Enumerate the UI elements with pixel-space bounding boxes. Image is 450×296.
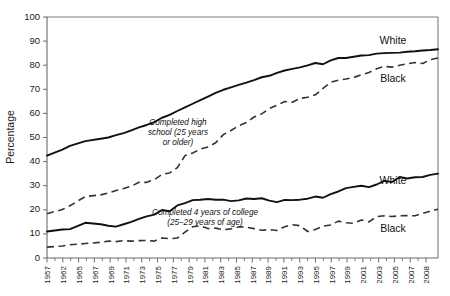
y-tick-label-20: 20: [29, 203, 40, 214]
y-axis-title: Percentage: [4, 110, 16, 164]
y-tick-label-90: 90: [29, 35, 40, 46]
series-label-high-school-white: White: [380, 34, 407, 46]
education-attainment-line-chart: 0102030405060708090100 19571962196519671…: [0, 0, 450, 296]
y-tick-label-50: 50: [29, 131, 40, 142]
chart-container: 0102030405060708090100 19571962196519671…: [0, 0, 450, 296]
x-tick-label-1965: 1965: [75, 265, 84, 283]
x-tick-label-1993: 1993: [296, 265, 305, 283]
x-tick-label-1962: 1962: [59, 265, 68, 283]
x-tick-label-1981: 1981: [201, 265, 210, 283]
annotation-high-school-line-3: or older): [163, 138, 194, 147]
x-tick-label-1973: 1973: [138, 265, 147, 283]
annotation-college-line-1: Completed 4 years of college: [152, 208, 258, 217]
y-tick-label-70: 70: [29, 83, 40, 94]
annotation-college: Completed 4 years of college (25–29 year…: [152, 208, 258, 227]
x-tick-label-1987: 1987: [249, 265, 258, 283]
y-tick-label-0: 0: [35, 252, 40, 263]
x-tick-label-1991: 1991: [280, 265, 289, 283]
x-tick-label-2003: 2003: [375, 265, 384, 283]
series-label-college-white: White: [380, 174, 407, 186]
x-tick-label-2007: 2007: [407, 265, 416, 283]
y-tick-label-80: 80: [29, 59, 40, 70]
series-label-college-black: Black: [380, 222, 406, 234]
x-tick-label-1967: 1967: [91, 265, 100, 283]
x-tick-label-1957: 1957: [43, 265, 52, 283]
x-tick-label-1997: 1997: [328, 265, 337, 283]
y-tick-label-60: 60: [29, 107, 40, 118]
x-tick-label-1975: 1975: [154, 265, 163, 283]
x-tick-label-1977: 1977: [170, 265, 179, 283]
x-tick-label-2001: 2001: [359, 265, 368, 283]
annotation-high-school-line-1: Completed high: [149, 118, 207, 127]
x-tick-label-2008: 2008: [422, 265, 431, 283]
series-label-high-school-black: Black: [380, 72, 406, 84]
y-tick-label-30: 30: [29, 179, 40, 190]
y-tick-label-40: 40: [29, 155, 40, 166]
x-tick-label-1999: 1999: [343, 265, 352, 283]
x-tick-label-1971: 1971: [122, 265, 131, 283]
annotation-high-school-line-2: school (25 years: [148, 128, 208, 137]
x-tick-label-1995: 1995: [312, 265, 321, 283]
annotation-college-line-2: (25–29 years of age): [167, 218, 243, 227]
x-tick-label-2005: 2005: [391, 265, 400, 283]
x-tick-label-1969: 1969: [107, 265, 116, 283]
x-tick-label-1989: 1989: [264, 265, 273, 283]
y-tick-label-100: 100: [24, 11, 40, 22]
x-tick-label-1979: 1979: [186, 265, 195, 283]
x-tick-label-1985: 1985: [233, 265, 242, 283]
y-tick-label-10: 10: [29, 227, 40, 238]
x-tick-label-1983: 1983: [217, 265, 226, 283]
